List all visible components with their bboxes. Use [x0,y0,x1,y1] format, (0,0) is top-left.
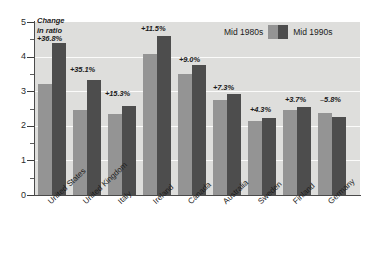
bar-mid1980s-canada [178,74,192,195]
y-axis-tick [27,195,34,196]
y-axis-line [34,21,35,196]
y-axis-minor-tick [30,39,34,40]
y-axis-tick [27,22,34,23]
y-axis-tick [27,126,34,127]
annotation-caption: Change in ratio [37,16,65,35]
y-axis-label-4: 4 [0,52,26,61]
y-axis-tick [27,160,34,161]
annotation-canada: +9.0% [179,56,200,64]
legend-swatch-mid1990s [278,25,288,39]
bar-chart: 5 4 3 2 1 0 Change in ratio +36.8% +35.1… [0,0,375,266]
bar-mid1990s-canada [192,65,206,195]
y-axis-tick [27,57,34,58]
bar-mid1980s-germany [318,113,332,195]
bar-mid1980s-ireland [143,54,157,195]
legend-label-mid1980s: Mid 1980s [224,28,263,37]
annotation-united-states: +36.8% [37,35,62,43]
bar-mid1990s-australia [227,94,241,195]
y-axis-label-3: 3 [0,87,26,96]
annotation-finland: +3.7% [285,96,306,104]
y-axis-label-5: 5 [0,18,26,27]
bar-mid1980s-finland [283,110,297,196]
legend-label-mid1990s: Mid 1990s [293,28,332,37]
y-axis-label-2: 2 [0,121,26,130]
legend: Mid 1980s Mid 1990s [224,25,332,39]
y-axis-label-0: 0 [0,191,26,200]
annotation-united-kingdom: +35.1% [70,66,95,74]
y-axis-minor-tick [30,143,34,144]
annotation-germany: –5.8% [320,96,341,104]
bar-mid1990s-ireland [157,36,171,195]
bar-mid1990s-italy [122,106,136,195]
bar-mid1980s-australia [213,100,227,195]
y-axis-minor-tick [30,178,34,179]
annotation-italy: +15.3% [105,90,130,98]
y-axis-tick [27,91,34,92]
legend-swatch-mid1980s [268,25,278,39]
legend-swatches [268,25,288,39]
y-axis-label-1: 1 [0,156,26,165]
y-axis-minor-tick [30,74,34,75]
bar-mid1990s-united-states [52,43,66,195]
annotation-ireland: +11.5% [141,25,166,33]
bar-mid1990s-united-kingdom [87,80,101,195]
bar-mid1980s-united-states [38,84,52,195]
annotation-sweden: +4.3% [250,106,271,114]
annotation-australia: +7.3% [213,84,234,92]
annotation-caption-line1: Change [37,16,65,26]
y-axis-minor-tick [30,109,34,110]
